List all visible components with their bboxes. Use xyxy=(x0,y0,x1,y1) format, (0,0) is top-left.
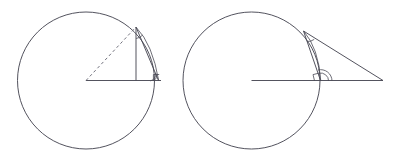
left-hypotenuse xyxy=(136,27,159,81)
left-panel-group xyxy=(18,12,162,149)
figure-canvas xyxy=(0,0,398,160)
left-dashed-chord xyxy=(86,27,136,81)
geometry-diagram xyxy=(0,0,398,160)
right-panel-group xyxy=(183,12,383,149)
